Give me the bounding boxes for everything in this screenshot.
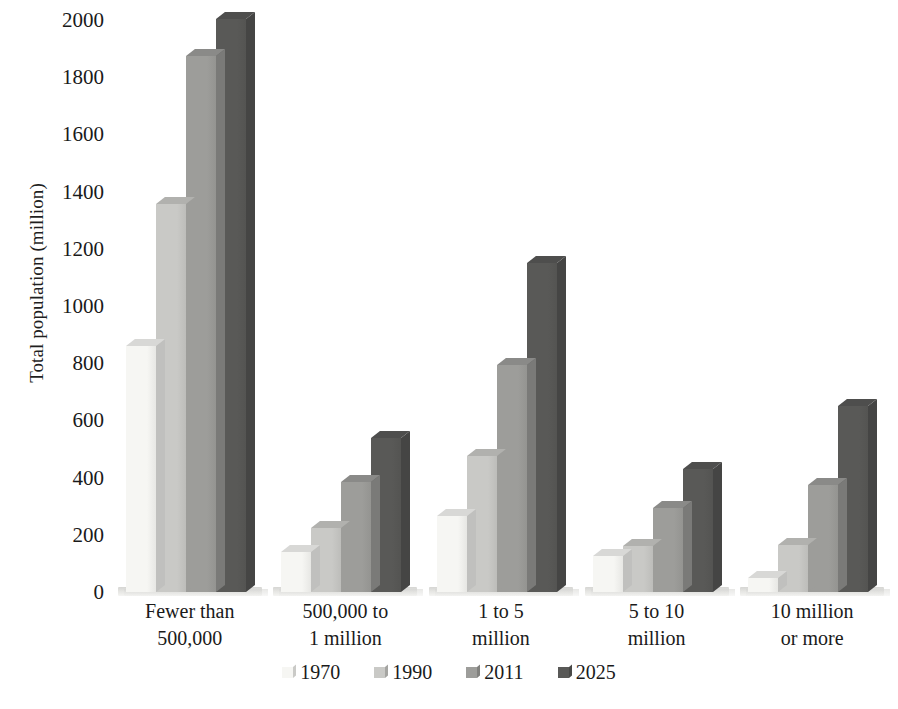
bar-front-face: [281, 552, 311, 592]
bar-side-face: [527, 358, 536, 592]
y-axis-tick-600: 600: [30, 410, 104, 431]
bar-front-face: [748, 578, 778, 592]
legend-item-1970[interactable]: 1970: [282, 662, 340, 682]
legend-swatch-1970: [282, 667, 293, 678]
x-axis-label-1: Fewer than500,000: [112, 598, 268, 652]
bar-group-2: [281, 20, 401, 592]
bar-side-face: [341, 521, 350, 592]
legend-item-1990[interactable]: 1990: [374, 662, 432, 682]
chart-legend: 1970199020112025: [0, 662, 898, 682]
x-axis-label-line: Fewer than: [112, 598, 268, 625]
legend-swatch-2011: [466, 667, 477, 678]
legend-swatch-1990: [374, 667, 385, 678]
x-axis-label-line: million: [579, 625, 735, 652]
y-axis-tick-0: 0: [30, 582, 104, 603]
x-axis-label-line: million: [423, 625, 579, 652]
legend-item-2011[interactable]: 2011: [466, 662, 523, 682]
legend-swatch-fill: [466, 667, 477, 678]
bar-side-face: [557, 256, 566, 592]
bar-side-face: [401, 431, 410, 592]
legend-label: 1990: [392, 662, 432, 682]
y-axis-tick-2000: 2000: [30, 10, 104, 31]
bar-group-5: [748, 20, 868, 592]
legend-label: 1970: [300, 662, 340, 682]
legend-swatch-fill: [282, 667, 293, 678]
x-axis-label-line: or more: [734, 625, 890, 652]
legend-swatch-2025: [558, 667, 569, 678]
y-axis-tick-1600: 1600: [30, 124, 104, 145]
bar-side-face: [653, 539, 662, 592]
y-axis-tick-1800: 1800: [30, 67, 104, 88]
bar-side-face: [246, 12, 255, 592]
bar-group-3: [437, 20, 557, 592]
legend-label: 2025: [576, 662, 616, 682]
bar-front-face: [437, 516, 467, 592]
legend-item-2025[interactable]: 2025: [558, 662, 616, 682]
bar-side-face: [808, 538, 817, 592]
y-axis-tick-labels: 2000180016001400120010008006004002000: [30, 0, 104, 709]
bar-side-face: [156, 339, 165, 592]
y-axis-tick-1400: 1400: [30, 181, 104, 202]
x-axis-label-line: 500,000: [112, 625, 268, 652]
x-axis-label-2: 500,000 to1 million: [268, 598, 424, 652]
x-axis-label-line: 1 to 5: [423, 598, 579, 625]
bar-chart: Total population (million) 2000180016001…: [0, 0, 898, 709]
plot-area: [112, 20, 890, 592]
bar-group-1: [126, 20, 246, 592]
legend-label: 2011: [484, 662, 523, 682]
x-axis-label-line: 10 million: [734, 598, 890, 625]
x-axis-label-line: 500,000 to: [268, 598, 424, 625]
bar-1970-4[interactable]: [593, 556, 623, 592]
y-axis-tick-400: 400: [30, 467, 104, 488]
bar-side-face: [311, 545, 320, 592]
bar-1970-3[interactable]: [437, 516, 467, 592]
bar-side-face: [683, 501, 692, 592]
bar-group-4: [593, 20, 713, 592]
bar-side-face: [623, 549, 632, 592]
bar-side-face: [216, 49, 225, 592]
y-axis-tick-200: 200: [30, 524, 104, 545]
bar-front-face: [126, 346, 156, 592]
bar-1970-2[interactable]: [281, 552, 311, 592]
bar-side-face: [186, 197, 195, 592]
bar-side-face: [467, 509, 476, 592]
y-axis-tick-1000: 1000: [30, 296, 104, 317]
y-axis-tick-1200: 1200: [30, 238, 104, 259]
x-axis-label-4: 5 to 10million: [579, 598, 735, 652]
x-axis-label-5: 10 millionor more: [734, 598, 890, 652]
x-axis-label-line: 1 million: [268, 625, 424, 652]
y-axis-tick-800: 800: [30, 353, 104, 374]
bar-side-face: [713, 462, 722, 592]
x-axis-category-labels: Fewer than500,000500,000 to1 million1 to…: [112, 598, 890, 662]
bar-side-face: [868, 399, 877, 592]
bar-side-face: [838, 478, 847, 592]
x-axis-label-line: 5 to 10: [579, 598, 735, 625]
legend-swatch-fill: [374, 667, 385, 678]
legend-swatch-fill: [558, 667, 569, 678]
bar-front-face: [593, 556, 623, 592]
bar-side-face: [497, 449, 506, 592]
x-axis-label-3: 1 to 5million: [423, 598, 579, 652]
bar-side-face: [371, 475, 380, 592]
bar-1970-5[interactable]: [748, 578, 778, 592]
bar-1970-1[interactable]: [126, 346, 156, 592]
